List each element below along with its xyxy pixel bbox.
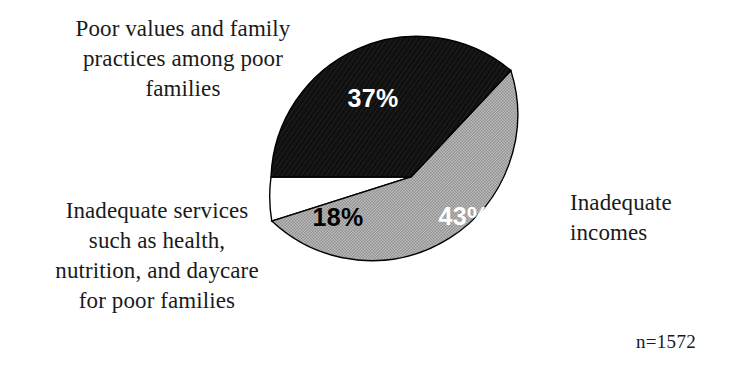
pie-chart-figure: Poor values and family practices among p… [0,0,743,374]
sample-size-annotation: n=1572 [636,331,696,353]
slice-label-inadequate-services: Inadequate services such as health, nutr… [12,196,302,316]
pie-svg [268,34,554,320]
pie-graphic: 37% 43% 18% [268,34,554,320]
slice-label-inadequate-incomes: Inadequate incomes [570,188,740,248]
